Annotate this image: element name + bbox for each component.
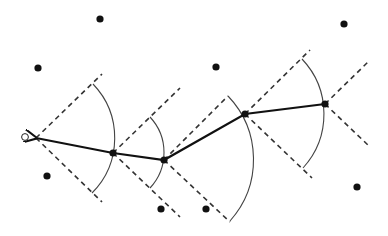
obstacle-dot <box>43 172 50 179</box>
cone-lower-boundary <box>164 160 230 222</box>
cone-upper-boundary <box>113 88 180 153</box>
cone-lower-boundary <box>113 153 180 217</box>
path-polyline <box>36 104 325 160</box>
cone-upper-boundary <box>245 50 310 114</box>
path-node <box>241 110 248 117</box>
cone-lower-boundary <box>245 114 312 178</box>
cone-upper-boundary <box>36 74 102 138</box>
cone-range-arc <box>150 117 164 188</box>
obstacle-dot <box>353 183 360 190</box>
obstacle-dot <box>157 205 164 212</box>
visibility-cones <box>36 50 369 222</box>
obstacle-dot <box>96 15 103 22</box>
cone-upper-boundary <box>325 62 368 104</box>
path-node <box>321 100 328 107</box>
start-point-circle <box>22 134 29 141</box>
obstacle-dot <box>34 64 41 71</box>
cone-lower-boundary <box>325 104 369 146</box>
obstacle-dot <box>340 20 347 27</box>
path-node <box>160 156 167 163</box>
path-node <box>109 149 116 156</box>
cone-range-arc <box>302 59 324 168</box>
planned-path <box>36 100 329 163</box>
path-planning-diagram <box>0 0 388 236</box>
cone-range-arc <box>92 84 115 193</box>
obstacle-dot <box>202 205 209 212</box>
cone-range-arc <box>228 96 254 221</box>
start-marker <box>22 134 29 141</box>
obstacle-dot <box>212 63 219 70</box>
